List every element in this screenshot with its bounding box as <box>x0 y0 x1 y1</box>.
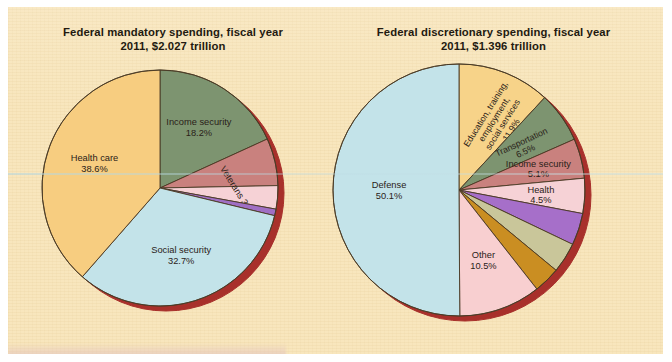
slice-label: Defense50.1% <box>372 180 407 201</box>
figure-page: Federal mandatory spending, fiscal year … <box>0 0 672 362</box>
pie-svg-discretionary: Education, training,employment,social se… <box>324 7 663 355</box>
slice-label: Health4.5% <box>527 185 554 205</box>
slice-label: Other10.5% <box>470 250 496 271</box>
page-bottom-margin <box>0 354 672 362</box>
chart-federal-discretionary-spending: Federal discretionary spending, fiscal y… <box>324 7 663 355</box>
chart-federal-mandatory-spending: Federal mandatory spending, fiscal year … <box>8 7 338 355</box>
pie-svg-mandatory: Income security18.2%Veterans 3.2%Social … <box>8 7 338 355</box>
paper-background: Federal mandatory spending, fiscal year … <box>8 7 663 355</box>
